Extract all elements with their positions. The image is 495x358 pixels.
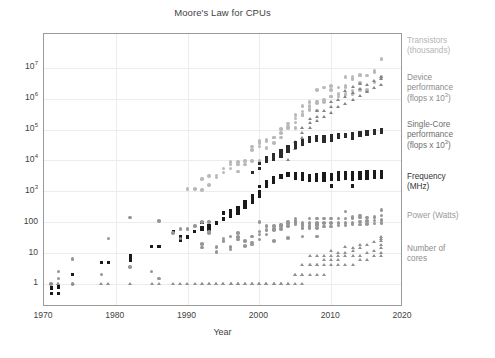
data-point	[337, 177, 340, 180]
data-point	[215, 222, 218, 225]
data-point	[57, 270, 61, 274]
data-point	[264, 282, 268, 285]
data-point	[365, 130, 368, 133]
data-point	[286, 158, 290, 161]
data-point	[351, 137, 354, 140]
data-point	[265, 160, 268, 163]
data-point	[50, 292, 53, 295]
data-point	[157, 282, 161, 285]
data-point	[272, 157, 275, 160]
series-label-power: Power (Watts)	[407, 211, 493, 221]
y-axis-tick-label: 105	[0, 124, 38, 133]
x-axis-tick-label: 1980	[95, 310, 135, 320]
data-point	[279, 131, 283, 135]
data-point	[351, 263, 355, 266]
data-point	[258, 162, 261, 165]
data-point	[337, 221, 341, 225]
data-point	[236, 231, 240, 235]
data-point	[200, 188, 204, 192]
data-point	[308, 109, 312, 113]
data-point	[293, 273, 297, 276]
data-point	[265, 228, 269, 232]
data-point	[207, 282, 211, 285]
data-point	[207, 183, 211, 187]
data-point	[315, 109, 319, 112]
data-point	[379, 83, 383, 86]
data-point	[279, 174, 282, 177]
data-point	[258, 190, 261, 193]
data-point	[315, 273, 319, 276]
data-point	[379, 235, 383, 238]
data-point	[265, 180, 268, 183]
data-point	[157, 245, 160, 248]
data-point	[351, 85, 355, 88]
data-point	[329, 221, 333, 225]
data-point	[308, 273, 312, 276]
data-point	[265, 146, 269, 150]
data-point	[178, 282, 182, 285]
data-point	[330, 184, 333, 187]
data-point	[343, 102, 347, 105]
data-point	[301, 172, 304, 175]
data-point	[372, 86, 376, 89]
data-point	[315, 173, 318, 176]
data-point	[308, 136, 311, 139]
data-point	[243, 239, 247, 243]
data-point	[308, 263, 312, 266]
data-point	[329, 258, 333, 261]
data-point	[336, 251, 340, 254]
data-point	[301, 139, 304, 142]
data-point	[322, 109, 326, 112]
data-point	[322, 225, 326, 229]
data-point	[365, 251, 369, 254]
data-point	[343, 95, 347, 98]
data-point	[336, 258, 340, 261]
data-point	[250, 235, 254, 239]
data-point	[351, 171, 354, 174]
data-point	[308, 117, 312, 120]
series-label-transistors: Transistors(thousands)	[407, 36, 493, 57]
data-point	[294, 141, 297, 144]
data-point	[322, 258, 326, 261]
data-point	[358, 246, 362, 249]
data-point	[272, 136, 276, 140]
scatter-points-layer	[44, 34, 401, 305]
data-point	[236, 160, 240, 164]
data-point	[129, 258, 132, 261]
data-point	[358, 254, 362, 257]
data-point	[322, 115, 326, 118]
chart-figure: Moore's Law for CPUs 1071061051041031001…	[0, 0, 495, 358]
data-point	[222, 167, 226, 171]
data-point	[322, 263, 326, 266]
data-point	[351, 246, 355, 249]
data-point	[330, 139, 333, 142]
data-point	[329, 95, 333, 99]
data-point	[380, 57, 384, 61]
data-point	[329, 217, 333, 221]
data-point	[107, 237, 111, 241]
data-point	[57, 292, 60, 295]
data-point	[358, 258, 362, 261]
data-point	[128, 265, 132, 269]
data-point	[315, 263, 319, 266]
data-point	[322, 273, 326, 276]
data-point	[251, 171, 254, 174]
data-point	[379, 243, 383, 246]
data-point	[265, 233, 269, 237]
data-point	[49, 282, 53, 285]
data-point	[150, 245, 153, 248]
data-point	[373, 222, 377, 226]
data-point	[200, 282, 204, 285]
data-point	[243, 244, 247, 248]
data-point	[250, 159, 254, 163]
data-point	[229, 245, 233, 249]
data-point	[193, 224, 197, 228]
y-axis-tick-label: 100	[0, 217, 38, 226]
data-point	[286, 282, 290, 285]
data-point	[99, 282, 103, 285]
series-label-device-perf: Deviceperformance(flops x 103)	[407, 73, 493, 104]
data-point	[322, 221, 326, 225]
data-point	[343, 89, 347, 92]
data-point	[380, 208, 384, 212]
data-point	[215, 250, 219, 254]
